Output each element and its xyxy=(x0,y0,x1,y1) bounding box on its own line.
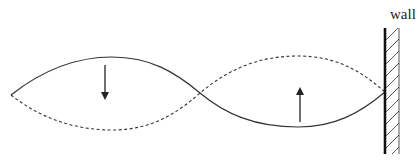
dashed-wave xyxy=(11,56,385,130)
solid-wave xyxy=(11,57,385,127)
wall-hatching xyxy=(386,26,400,160)
standing-wave-diagram: wall xyxy=(0,0,420,165)
wall xyxy=(385,26,400,160)
wall-label: wall xyxy=(390,6,416,22)
